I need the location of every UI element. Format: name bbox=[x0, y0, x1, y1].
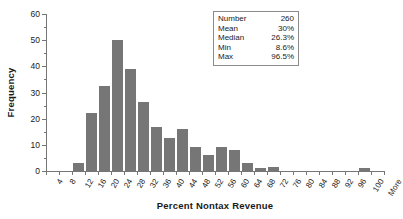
x-tick-label: 72 bbox=[278, 178, 290, 190]
x-tick bbox=[85, 171, 86, 175]
stats-row: Number260 bbox=[218, 14, 294, 24]
stats-row: Mean30% bbox=[218, 24, 294, 34]
x-tick-label: 84 bbox=[317, 178, 329, 190]
y-tick-label: 10 bbox=[31, 141, 40, 150]
y-axis-title: Frequency bbox=[4, 14, 18, 171]
histogram-bar bbox=[125, 69, 136, 171]
histogram-bar bbox=[86, 113, 97, 171]
histogram-bar bbox=[216, 147, 227, 171]
x-tick bbox=[59, 171, 60, 175]
y-tick-major bbox=[42, 14, 46, 15]
stats-key: Min bbox=[218, 43, 231, 53]
x-tick bbox=[332, 171, 333, 175]
histogram-bar bbox=[359, 168, 370, 171]
y-tick-major bbox=[42, 66, 46, 67]
x-tick-label: 48 bbox=[200, 178, 212, 190]
x-tick bbox=[319, 171, 320, 175]
stats-rows: Number260Mean30%Median26.3%Min8.6%Max96.… bbox=[218, 14, 294, 62]
y-tick-major bbox=[42, 93, 46, 94]
x-tick bbox=[137, 171, 138, 175]
y-tick-minor bbox=[44, 158, 46, 159]
y-tick-minor bbox=[44, 79, 46, 80]
x-tick-label: 40 bbox=[174, 178, 186, 190]
stats-value: 30% bbox=[278, 24, 294, 34]
x-tick-label: 32 bbox=[148, 178, 160, 190]
x-tick-label: 100 bbox=[371, 178, 385, 194]
stats-key: Mean bbox=[218, 24, 238, 34]
x-tick-label: 52 bbox=[213, 178, 225, 190]
histogram-bar bbox=[99, 86, 110, 171]
stats-row: Max96.5% bbox=[218, 52, 294, 62]
y-axis-title-text: Frequency bbox=[6, 68, 17, 118]
x-tick bbox=[267, 171, 268, 175]
x-tick-label: 88 bbox=[330, 178, 342, 190]
x-tick bbox=[384, 171, 385, 175]
x-tick-label: 24 bbox=[122, 178, 134, 190]
x-axis-title: Percent Nontax Revenue bbox=[46, 200, 384, 211]
y-tick-label: 60 bbox=[31, 10, 40, 19]
x-tick-label: 28 bbox=[135, 178, 147, 190]
x-tick bbox=[215, 171, 216, 175]
histogram-bar bbox=[229, 150, 240, 171]
x-tick-label: More bbox=[387, 178, 403, 198]
x-tick-label: 76 bbox=[291, 178, 303, 190]
y-tick-major bbox=[42, 119, 46, 120]
x-tick bbox=[72, 171, 73, 175]
histogram-bar bbox=[138, 102, 149, 171]
histogram-bar bbox=[190, 147, 201, 171]
histogram-bar bbox=[164, 138, 175, 171]
x-tick bbox=[293, 171, 294, 175]
histogram-bar bbox=[268, 167, 279, 171]
x-tick bbox=[111, 171, 112, 175]
x-tick-label: 12 bbox=[83, 178, 95, 190]
stats-key: Median bbox=[218, 33, 244, 43]
histogram-bar bbox=[151, 127, 162, 171]
x-tick bbox=[371, 171, 372, 175]
x-tick bbox=[189, 171, 190, 175]
stats-key: Max bbox=[218, 52, 233, 62]
y-tick-label: 0 bbox=[35, 167, 40, 176]
stats-value: 260 bbox=[281, 14, 294, 24]
x-tick bbox=[163, 171, 164, 175]
y-tick-minor bbox=[44, 132, 46, 133]
stats-value: 8.6% bbox=[276, 43, 294, 53]
x-tick bbox=[46, 171, 47, 175]
x-tick-label: 56 bbox=[226, 178, 238, 190]
x-tick bbox=[241, 171, 242, 175]
histogram-bar bbox=[203, 155, 214, 171]
x-tick-label: 16 bbox=[96, 178, 108, 190]
x-tick bbox=[176, 171, 177, 175]
y-tick-label: 40 bbox=[31, 62, 40, 71]
x-tick bbox=[306, 171, 307, 175]
y-tick-label: 20 bbox=[31, 114, 40, 123]
histogram-bar bbox=[255, 168, 266, 171]
y-tick-major bbox=[42, 40, 46, 41]
x-tick-label: 96 bbox=[356, 178, 368, 190]
x-tick bbox=[202, 171, 203, 175]
stats-row: Min8.6% bbox=[218, 43, 294, 53]
x-tick bbox=[150, 171, 151, 175]
x-tick-label: 68 bbox=[265, 178, 277, 190]
stats-box: Number260Mean30%Median26.3%Min8.6%Max96.… bbox=[213, 11, 299, 66]
x-tick bbox=[345, 171, 346, 175]
stats-value: 96.5% bbox=[271, 52, 294, 62]
x-tick-label: 36 bbox=[161, 178, 173, 190]
stats-row: Median26.3% bbox=[218, 33, 294, 43]
x-tick-label: 80 bbox=[304, 178, 316, 190]
y-tick-major bbox=[42, 145, 46, 146]
x-tick bbox=[254, 171, 255, 175]
x-tick-label: 20 bbox=[109, 178, 121, 190]
histogram-bar bbox=[177, 129, 188, 171]
x-tick bbox=[280, 171, 281, 175]
stats-value: 26.3% bbox=[271, 33, 294, 43]
x-tick-label: 8 bbox=[68, 178, 77, 186]
x-tick-label: 92 bbox=[343, 178, 355, 190]
x-tick bbox=[358, 171, 359, 175]
x-tick bbox=[124, 171, 125, 175]
y-tick-label: 30 bbox=[31, 88, 40, 97]
x-tick bbox=[228, 171, 229, 175]
x-tick-label: 44 bbox=[187, 178, 199, 190]
x-tick-label: 4 bbox=[55, 178, 64, 186]
stats-key: Number bbox=[218, 14, 246, 24]
